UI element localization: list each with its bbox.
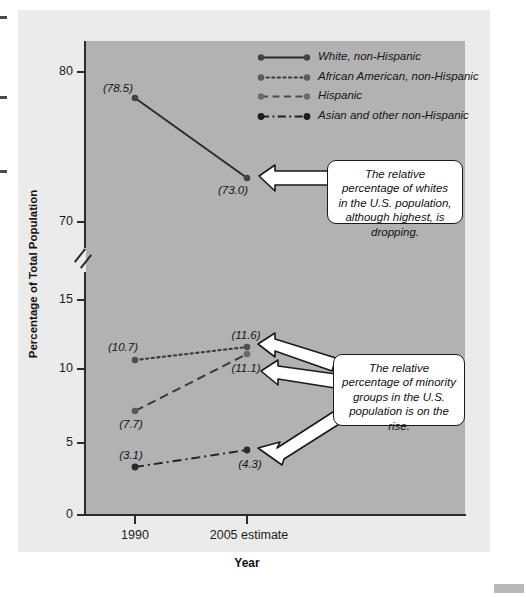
y-tick-label-10: 10 [33,362,73,375]
y-tick-15 [77,299,85,301]
y-axis-line [84,41,86,516]
figure-page: 80 70 15 10 5 0 1990 2005 estimate Year … [0,0,526,597]
x-tick-label-2005: 2005 estimate [210,528,289,542]
legend-label-hispanic: Hispanic [318,89,362,101]
y-tick-10 [77,368,85,370]
legend-item-hispanic[interactable]: Hispanic [256,87,468,107]
point-label-white-1990: (78.5) [103,82,133,94]
point-label-white-2005: (73.0) [218,184,248,196]
y-tick-label-70: 70 [33,215,73,228]
x-axis-title: Year [234,556,259,570]
point-label-asian-1990: (3.1) [119,449,143,461]
point-label-african-american-2005: (11.6) [231,329,260,341]
callout-whites: The relative percentage of whites in the… [327,160,463,224]
legend-swatch-white-solid-icon [256,48,312,67]
y-tick-70 [77,221,85,223]
legend-label-white: White, non-Hispanic [318,50,421,62]
point-label-african-american-1990: (10.7) [108,341,138,353]
y-tick-0 [77,514,85,516]
y-axis-break-icon [72,247,96,273]
point-label-hispanic-2005: (11.1) [231,362,260,374]
legend-label-african-american: African American, non-Hispanic [318,70,479,82]
y-tick-label-0: 0 [33,508,73,521]
legend-item-african-american[interactable]: African American, non-Hispanic [256,68,468,88]
y-axis-title: Percentage of Total Population [27,184,39,364]
x-tick-label-1990: 1990 [121,528,149,542]
point-label-hispanic-1990: (7.7) [119,418,143,430]
y-tick-label-5: 5 [33,436,73,449]
page-edge-artifact-mid [0,170,7,173]
callout-minority: The relative percentage of minority grou… [333,354,465,426]
y-tick-5 [77,442,85,444]
legend-swatch-hispanic-dashed-icon [256,87,312,106]
y-tick-80 [77,71,85,73]
legend-swatch-asian-dashdot-icon [256,107,312,126]
page-corner-artifact [494,584,524,593]
legend-label-asian: Asian and other non-Hispanic [318,109,469,121]
legend: White, non-Hispanic African American, no… [256,48,468,126]
page-edge-artifact-top [0,16,7,19]
page-edge-artifact-upper [0,96,7,99]
legend-item-asian[interactable]: Asian and other non-Hispanic [256,107,468,127]
x-tick-2005 [246,515,248,524]
y-tick-label-15: 15 [33,293,73,306]
y-tick-label-80: 80 [33,65,73,78]
x-axis-line [84,514,466,516]
legend-swatch-african-american-dotted-icon [256,68,312,87]
x-tick-1990 [134,515,136,524]
legend-item-white[interactable]: White, non-Hispanic [256,48,468,68]
point-label-asian-2005: (4.3) [238,458,262,470]
